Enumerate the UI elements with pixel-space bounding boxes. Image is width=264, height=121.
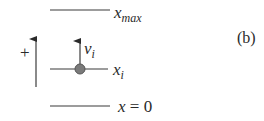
label-x-max: xmax: [113, 3, 142, 25]
diagram-canvas: xmax + vi xi x = 0 (b): [0, 0, 264, 121]
particle-dot: [75, 64, 85, 74]
label-x-zero: x = 0: [117, 97, 152, 116]
label-x-i: xi: [112, 60, 124, 82]
panel-label: (b): [237, 29, 256, 47]
label-v-i: vi: [84, 39, 95, 61]
plus-sign: +: [20, 43, 30, 62]
